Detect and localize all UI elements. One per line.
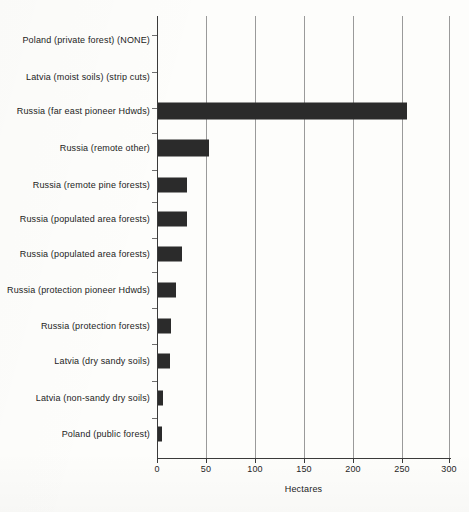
category-label: Latvia (dry sandy soils) — [54, 356, 150, 366]
bar-value — [158, 140, 209, 157]
x-tick-label-100: 100 — [247, 464, 263, 474]
chart-page: Poland (private forest) (NONE) Latvia (m… — [0, 0, 469, 512]
x-axis-tick — [157, 458, 158, 463]
category-label: Poland (private forest) (NONE) — [22, 35, 150, 45]
chart-row: Poland (public forest) — [0, 415, 469, 453]
chart-row: Russia (populated area forests) — [0, 235, 469, 273]
x-tick-label-250: 250 — [394, 464, 410, 474]
x-axis-tick — [206, 458, 207, 463]
category-label: Russia (far east pioneer Hdwds) — [17, 106, 150, 116]
x-axis-tick — [304, 458, 305, 463]
bar-value — [158, 178, 187, 193]
bar-value — [158, 319, 171, 334]
x-tick-label-300: 300 — [441, 464, 457, 474]
bar-value — [158, 283, 176, 298]
category-label: Russia (protection pioneer Hdwds) — [7, 285, 150, 295]
x-axis-tick — [449, 458, 450, 463]
horizontal-bar-chart: Poland (private forest) (NONE) Latvia (m… — [0, 0, 469, 512]
x-tick-label-200: 200 — [345, 464, 361, 474]
chart-row: Latvia (non-sandy dry soils) — [0, 379, 469, 417]
chart-row: Russia (protection pioneer Hdwds) — [0, 271, 469, 309]
bar-value — [158, 391, 163, 406]
bar-value — [158, 212, 187, 227]
category-label: Poland (public forest) — [62, 429, 150, 439]
chart-row: Poland (private forest) (NONE) — [0, 21, 469, 59]
x-tick-label-150: 150 — [296, 464, 312, 474]
x-axis-tick — [353, 458, 354, 463]
bar-value — [158, 354, 170, 369]
category-label: Latvia (moist soils) (strip cuts) — [26, 72, 150, 82]
chart-row: Latvia (dry sandy soils) — [0, 342, 469, 380]
bar-value — [158, 247, 182, 262]
chart-row: Latvia (moist soils) (strip cuts) — [0, 58, 469, 96]
chart-row: Russia (far east pioneer Hdwds) — [0, 92, 469, 130]
x-axis-title: Hectares — [157, 484, 450, 494]
category-label: Latvia (non-sandy dry soils) — [36, 393, 150, 403]
chart-row: Russia (populated area forests) — [0, 200, 469, 238]
category-label: Russia (remote pine forests) — [33, 180, 150, 190]
category-label: Russia (populated area forests) — [20, 249, 150, 259]
x-axis-tick — [402, 458, 403, 463]
category-label: Russia (remote other) — [60, 143, 150, 153]
chart-row: Russia (remote pine forests) — [0, 166, 469, 204]
chart-row: Russia (remote other) — [0, 129, 469, 167]
x-tick-label-50: 50 — [201, 464, 211, 474]
category-label: Russia (protection forests) — [41, 321, 150, 331]
x-tick-label-0: 0 — [154, 464, 159, 474]
bar-value — [158, 427, 162, 442]
x-axis-tick — [255, 458, 256, 463]
category-label: Russia (populated area forests) — [20, 214, 150, 224]
chart-row: Russia (protection forests) — [0, 307, 469, 345]
bar-value — [158, 103, 407, 120]
